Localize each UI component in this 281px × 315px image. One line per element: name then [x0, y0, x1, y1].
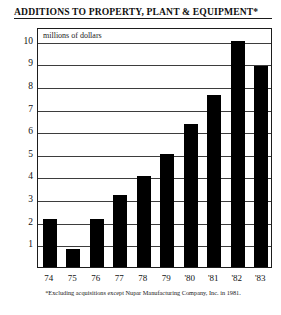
x-axis: 747576777879'80'81'82'83 — [37, 270, 272, 284]
page-title: ADDITIONS TO PROPERTY, PLANT & EQUIPMENT… — [14, 6, 272, 17]
bar-76 — [90, 219, 104, 267]
chart-title-block: ADDITIONS TO PROPERTY, PLANT & EQUIPMENT… — [14, 6, 272, 19]
bar-74 — [43, 219, 57, 267]
x-axis-tick-label: 75 — [68, 273, 77, 284]
chart-footnote: *Excluding acquisitions except Nupar Man… — [14, 289, 272, 297]
x-axis-tick-label: 79 — [162, 273, 171, 284]
bar-75 — [66, 249, 80, 267]
x-axis-tick-label: '82 — [231, 273, 242, 284]
bar-81 — [207, 95, 221, 267]
x-axis-tick-label: 76 — [91, 273, 100, 284]
y-axis-tick-label: 8 — [3, 82, 33, 92]
y-axis-tick-label: 1 — [3, 241, 33, 251]
y-axis-tick-label: 2 — [3, 218, 33, 228]
bar-79 — [160, 154, 174, 267]
plot-inner: millions of dollars — [38, 29, 271, 267]
title-divider — [14, 18, 272, 19]
x-axis-tick-label: 77 — [115, 273, 124, 284]
y-axis-tick-label: 4 — [3, 173, 33, 183]
y-axis-tick-label: 5 — [3, 150, 33, 160]
x-axis-tick-label: '83 — [255, 273, 266, 284]
axis-units-label: millions of dollars — [43, 31, 102, 41]
y-axis-tick-label: 10 — [3, 37, 33, 47]
chart-figure: ADDITIONS TO PROPERTY, PLANT & EQUIPMENT… — [0, 0, 281, 315]
y-axis-tick-label: 9 — [3, 59, 33, 69]
bar-80 — [184, 124, 198, 267]
bar-82 — [231, 41, 245, 267]
x-axis-tick-label: 74 — [44, 273, 53, 284]
x-axis-tick-label: '81 — [208, 273, 219, 284]
plot-area: millions of dollars — [37, 28, 272, 268]
bar-77 — [113, 195, 127, 267]
y-axis: 12345678910 — [0, 28, 33, 268]
bar-78 — [137, 176, 151, 267]
y-axis-tick-label: 6 — [3, 127, 33, 137]
x-axis-tick-label: 78 — [138, 273, 147, 284]
y-axis-tick-label: 3 — [3, 195, 33, 205]
bar-series — [38, 29, 271, 267]
x-axis-tick-label: '80 — [184, 273, 195, 284]
bar-83 — [254, 66, 268, 268]
y-axis-tick-label: 7 — [3, 105, 33, 115]
